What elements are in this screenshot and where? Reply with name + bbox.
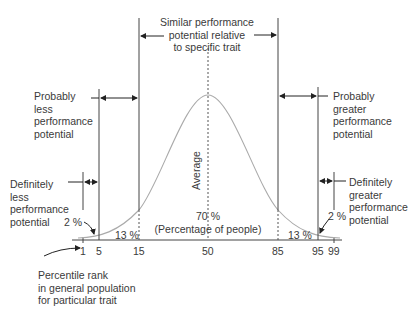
prob-less-3: performance (34, 115, 93, 128)
similar-line-3: to specific trait (160, 41, 254, 54)
pct-2-right: 2 % (328, 210, 346, 223)
pct-2-left: 2 % (64, 216, 82, 229)
similar-line-1: Similar performance (160, 16, 254, 29)
tick-85: 85 (272, 245, 284, 258)
prob-less-1: Probably (34, 90, 93, 103)
def-greater-4: potential (349, 214, 408, 227)
prob-greater-4: potential (333, 128, 392, 141)
tick-99: 99 (328, 245, 340, 258)
def-greater-1: Definitely (349, 176, 408, 189)
tick-50: 50 (202, 245, 214, 258)
pct-13-left: 13 % (115, 229, 139, 242)
center-percent: 70 % (Percentage of people) (148, 210, 268, 235)
definitely-greater-label: Definitely greater performance potential (349, 176, 408, 226)
def-less-4: potential (10, 216, 69, 229)
tick-95: 95 (312, 245, 324, 258)
tick-15: 15 (133, 245, 145, 258)
definitely-less-label: Definitely less performance potential (10, 178, 69, 228)
probably-greater-label: Probably greater performance potential (333, 90, 392, 140)
def-less-3: performance (10, 203, 69, 216)
def-greater-3: performance (349, 201, 408, 214)
similar-line-2: potential relative (160, 29, 254, 42)
prob-less-2: less (34, 103, 93, 116)
prob-greater-3: performance (333, 115, 392, 128)
center-pct-sub: (Percentage of people) (148, 223, 268, 236)
prob-greater-2: greater (333, 103, 392, 116)
axis-title: Percentile rank in general population fo… (38, 269, 136, 307)
def-less-2: less (10, 191, 69, 204)
tick-5: 5 (96, 245, 102, 258)
axis-title-2: in general population (38, 282, 136, 295)
probably-less-label: Probably less performance potential (34, 90, 93, 140)
similar-label: Similar performance potential relative t… (160, 16, 254, 54)
prob-greater-1: Probably (333, 90, 392, 103)
def-less-1: Definitely (10, 178, 69, 191)
tick-1: 1 (80, 245, 86, 258)
average-label: Average (190, 151, 203, 190)
axis-title-3: for particular trait (38, 294, 136, 307)
def-greater-2: greater (349, 189, 408, 202)
center-pct-value: 70 % (148, 210, 268, 223)
prob-less-4: potential (34, 128, 93, 141)
pct-13-right: 13 % (288, 229, 312, 242)
axis-title-1: Percentile rank (38, 269, 136, 282)
